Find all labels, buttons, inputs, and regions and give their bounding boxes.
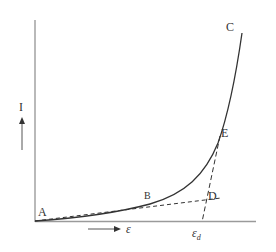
current-strain-diagram: I ε A B C D E εd [0, 0, 276, 252]
x-axis-label: ε [126, 222, 131, 236]
tangent-line-bd [35, 198, 221, 221]
up-arrow-icon [19, 117, 25, 124]
eps-d-subscript: d [197, 233, 202, 242]
point-a-label: A [38, 205, 47, 219]
point-e-label: E [221, 126, 228, 140]
point-d-label: D [208, 189, 217, 203]
right-arrow-icon [114, 226, 121, 232]
point-b-label: B [144, 190, 151, 201]
eps-d-label: εd [192, 226, 202, 242]
y-axis-label: I [19, 100, 23, 114]
point-c-label: C [226, 20, 234, 34]
tangent-line-e-epsd [202, 136, 220, 222]
